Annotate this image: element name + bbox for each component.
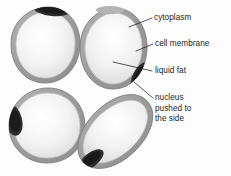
cell-top-left <box>11 0 80 83</box>
cell-top-right <box>80 6 153 93</box>
label-nucleus-line-3: the side <box>155 114 225 125</box>
label-cell-membrane: cell membrane <box>155 39 209 50</box>
cell-bottom-right <box>75 95 153 175</box>
liquid-fat-region <box>16 12 75 78</box>
label-liquid-fat: liquid fat <box>155 66 186 77</box>
liquid-fat-region <box>14 93 80 158</box>
label-cytoplasm: cytoplasm <box>154 13 191 24</box>
membrane-highlight <box>96 6 124 14</box>
liquid-fat-region <box>85 13 142 84</box>
label-nucleus-line-1: nucleus <box>155 93 225 104</box>
fat-cells-diagram <box>0 0 231 176</box>
cell-bottom-left <box>0 88 85 163</box>
label-nucleus-pushed-to-side: nucleus pushed to the side <box>155 93 225 125</box>
figure-canvas: cytoplasm cell membrane liquid fat nucle… <box>0 0 231 176</box>
label-nucleus-line-2: pushed to <box>155 104 225 115</box>
